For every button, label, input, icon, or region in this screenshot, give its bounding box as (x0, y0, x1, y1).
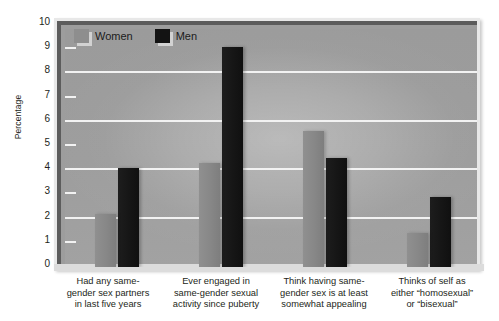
x-category-label-1-line-2: gender sex partners (54, 288, 162, 300)
bar-women-group-2 (199, 163, 220, 267)
x-category-label-4-line-2: either “homosexual” (378, 288, 486, 300)
y-tick-label-9: 9 (24, 41, 50, 51)
y-tick-label-7: 7 (24, 90, 50, 100)
x-category-label-4: Thinks of self aseither “homosexual”or “… (378, 276, 486, 311)
x-category-label-3-line-1: Think having same- (270, 276, 378, 288)
plot-outer-frame (54, 18, 480, 270)
x-category-label-1-line-1: Had any same- (54, 276, 162, 288)
x-category-label-1-line-3: in last five years (54, 299, 162, 311)
legend-swatch-women-icon (74, 29, 89, 43)
bar-women-group-1 (95, 214, 116, 267)
y-axis-tick-labels: 012345678910 (24, 0, 50, 321)
tickmark-3 (65, 192, 76, 194)
y-tick-label-1: 1 (24, 235, 50, 245)
y-tick-label-2: 2 (24, 211, 50, 221)
tickmark-5 (65, 144, 76, 146)
x-category-label-3-line-3: somewhat appealing (270, 299, 378, 311)
gridline-6 (65, 120, 477, 122)
plot-frame (57, 21, 477, 267)
x-category-label-1: Had any same-gender sex partnersin last … (54, 276, 162, 311)
x-category-label-3: Think having same-gender sex is at least… (270, 276, 378, 311)
x-category-label-4-line-1: Thinks of self as (378, 276, 486, 288)
bar-women-group-3 (303, 131, 324, 267)
y-tick-label-3: 3 (24, 186, 50, 196)
y-tick-label-5: 5 (24, 138, 50, 148)
chart-legend: Women Men (74, 29, 197, 43)
x-category-label-3-line-2: gender sex is at least (270, 288, 378, 300)
y-tick-label-10: 10 (24, 17, 50, 27)
bar-women-group-4 (407, 233, 428, 267)
y-tick-label-6: 6 (24, 114, 50, 124)
y-tick-label-8: 8 (24, 65, 50, 75)
legend-entry-men: Men (155, 29, 197, 43)
y-tick-label-0: 0 (24, 259, 50, 269)
bar-men-group-4 (430, 197, 451, 267)
gridline-8 (65, 71, 477, 73)
legend-entry-women: Women (74, 29, 133, 43)
plot-area (65, 29, 477, 267)
legend-swatch-men-icon (155, 29, 170, 43)
tickmark-9 (65, 47, 76, 49)
x-category-label-2: Ever engaged insame-gender sexualactivit… (162, 276, 270, 311)
x-category-label-2-line-1: Ever engaged in (162, 276, 270, 288)
tickmark-7 (65, 96, 76, 98)
bar-men-group-3 (326, 158, 347, 267)
tickmark-1 (65, 241, 76, 243)
x-category-label-4-line-3: or “bisexual” (378, 299, 486, 311)
bar-chart-figure: Percentage 012345678910 Women Men Had an… (0, 0, 499, 321)
x-category-label-2-line-3: activity since puberty (162, 299, 270, 311)
y-axis-title: Percentage (13, 77, 23, 157)
x-axis-category-labels: Had any same-gender sex partnersin last … (54, 276, 486, 321)
bar-men-group-2 (222, 47, 243, 267)
legend-label-women: Women (95, 31, 133, 42)
x-category-label-2-line-2: same-gender sexual (162, 288, 270, 300)
legend-label-men: Men (176, 31, 197, 42)
bar-men-group-1 (118, 168, 139, 267)
y-tick-label-4: 4 (24, 162, 50, 172)
